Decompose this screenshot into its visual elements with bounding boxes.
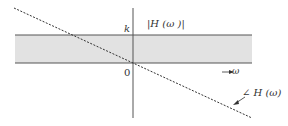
omega-axis-label: ω <box>232 67 239 76</box>
origin-label: 0 <box>124 68 130 78</box>
frequency-response-diagram: k 0 |H (ω )| ω ∠ H (ω) <box>0 0 288 126</box>
phase-label: ∠ H (ω) <box>242 88 281 98</box>
phase-pointer-arrow-icon <box>233 100 239 105</box>
diagram-canvas <box>0 0 288 126</box>
magnitude-label: |H (ω )| <box>147 19 185 29</box>
k-label: k <box>124 24 130 34</box>
